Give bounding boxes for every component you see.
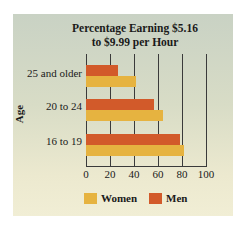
category-label: 20 to 24 — [46, 100, 82, 112]
legend: Women Men — [84, 192, 199, 204]
plot-area — [86, 54, 206, 167]
gridline-100 — [206, 54, 207, 167]
x-tick-label: 80 — [170, 168, 194, 180]
category-label: 16 to 19 — [46, 135, 82, 147]
bar-women-16-to-19 — [86, 145, 184, 156]
legend-label-men: Men — [166, 192, 187, 204]
x-tick-label: 20 — [98, 168, 122, 180]
x-tick-label: 0 — [74, 168, 98, 180]
legend-item-women: Women — [84, 192, 137, 204]
x-tick-label: 40 — [122, 168, 146, 180]
bar-women-20-to-24 — [86, 110, 163, 121]
legend-swatch-women — [84, 193, 97, 204]
y-axis-label: Age — [13, 105, 25, 123]
bar-men-16-to-19 — [86, 134, 180, 145]
bar-women-25-and-older — [86, 76, 136, 87]
legend-label-women: Women — [101, 192, 137, 204]
bar-men-20-to-24 — [86, 99, 154, 110]
x-tick-label: 60 — [146, 168, 170, 180]
x-tick-label: 100 — [194, 168, 218, 180]
legend-swatch-men — [149, 193, 162, 204]
legend-item-men: Men — [149, 192, 187, 204]
x-axis — [86, 166, 207, 167]
category-label: 25 and older — [27, 67, 82, 79]
title-line-1: Percentage Earning $5.16 — [60, 21, 210, 35]
title-line-2: to $9.99 per Hour — [60, 35, 210, 49]
chart-title: Percentage Earning $5.16 to $9.99 per Ho… — [60, 21, 210, 49]
bar-men-25-and-older — [86, 65, 118, 76]
